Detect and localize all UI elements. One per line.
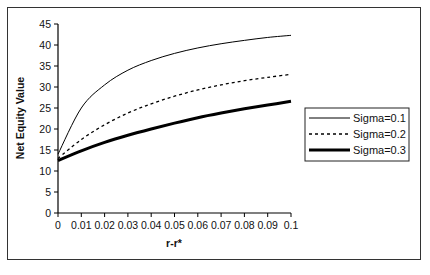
- x-tick-label: 0.03: [118, 219, 139, 231]
- y-tick-label: 45: [39, 18, 51, 30]
- y-tick-label: 0: [45, 207, 51, 219]
- x-tick-label: 0.01: [71, 219, 92, 231]
- x-tick-label: 0.05: [164, 219, 185, 231]
- y-tick-label: 10: [39, 165, 51, 177]
- x-tick-label: 0.02: [94, 219, 115, 231]
- x-tick-label: 0.08: [234, 219, 255, 231]
- y-axis-title: Net Equity Value: [14, 77, 26, 159]
- x-tick-label: 0.06: [188, 219, 209, 231]
- legend-label-sigma-0-3: Sigma=0.3: [353, 144, 406, 156]
- line-chart: 05101520253035404500.010.020.030.040.050…: [0, 0, 430, 275]
- y-tick-label: 30: [39, 81, 51, 93]
- y-tick-label: 25: [39, 102, 51, 114]
- x-tick-label: 0.09: [257, 219, 278, 231]
- y-tick-label: 5: [45, 186, 51, 198]
- series-line-sigma-0-3: [58, 101, 291, 160]
- y-tick-label: 40: [39, 39, 51, 51]
- series-layer: [58, 35, 291, 160]
- series-line-sigma-0-1: [58, 35, 291, 154]
- legend-label-sigma-0-1: Sigma=0.1: [353, 112, 406, 124]
- y-tick-label: 20: [39, 123, 51, 135]
- x-tick-label: 0.04: [141, 219, 162, 231]
- x-tick-label: 0: [55, 219, 61, 231]
- legend: Sigma=0.1 Sigma=0.2 Sigma=0.3: [305, 108, 409, 161]
- x-tick-label: 0.1: [284, 219, 299, 231]
- x-axis-title: r-r*: [166, 237, 183, 249]
- x-tick-label: 0.07: [211, 219, 232, 231]
- y-tick-label: 35: [39, 60, 51, 72]
- y-tick-label: 15: [39, 144, 51, 156]
- legend-label-sigma-0-2: Sigma=0.2: [353, 128, 406, 140]
